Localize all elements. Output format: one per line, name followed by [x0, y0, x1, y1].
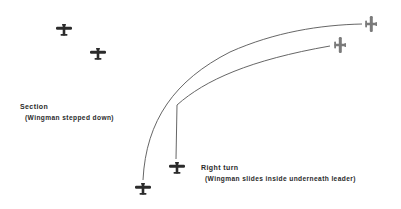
plane-icon-turn-start-wingman — [169, 162, 185, 174]
right-turn-title: Right turn — [201, 164, 238, 171]
section-title: Section — [20, 103, 48, 110]
right-turn-note: (Wingman slides inside underneath leader… — [205, 175, 356, 182]
wingman-turn-path — [176, 46, 330, 159]
plane-icon-turn-end-leader — [365, 16, 377, 32]
plane-icon-turn-start-leader — [135, 183, 151, 195]
plane-icon-section-wingman — [90, 48, 106, 60]
plane-icon-section-leader — [56, 24, 72, 36]
plane-icon-turn-end-wingman — [334, 37, 346, 53]
section-note: (Wingman stepped down) — [25, 114, 114, 121]
